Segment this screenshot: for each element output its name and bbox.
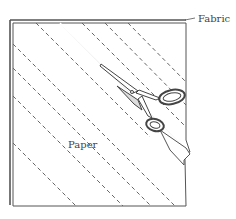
fabric-paper-diagram — [0, 0, 236, 219]
paper-label: Paper — [68, 139, 97, 150]
fabric-label: Fabric — [198, 13, 230, 24]
paper-layer — [13, 23, 190, 206]
